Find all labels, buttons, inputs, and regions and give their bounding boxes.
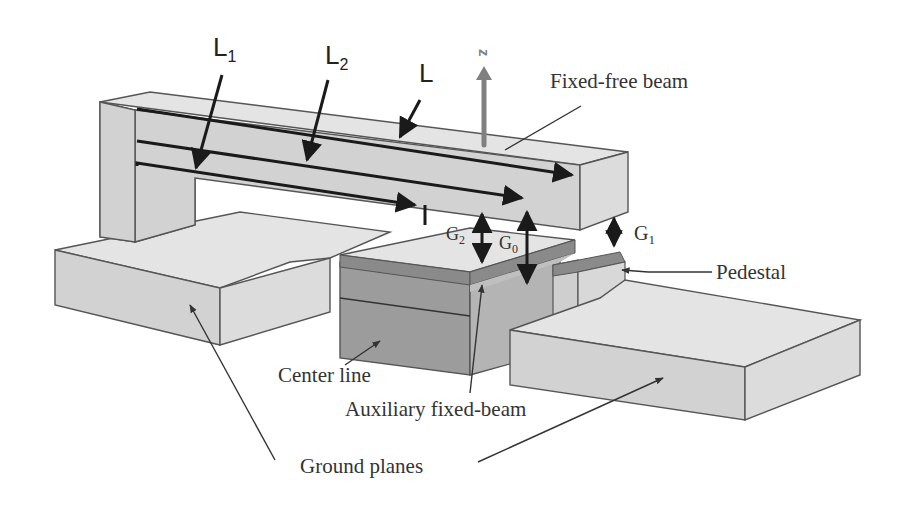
- fixed-free-beam: [100, 92, 628, 242]
- z-axis-label: z: [476, 49, 493, 57]
- label-L1: L1: [213, 32, 236, 65]
- label-L: L: [419, 58, 433, 88]
- label-fixed-free-beam: Fixed-free beam: [550, 69, 688, 93]
- label-auxiliary-fixed-beam: Auxiliary fixed-beam: [345, 397, 526, 421]
- label-G2: G2: [446, 224, 465, 247]
- mems-switch-diagram: z L1 L2 L Fixed-free beam G1 G2 G0 Pedes…: [0, 0, 906, 506]
- label-center-line: Center line: [278, 363, 371, 387]
- z-axis-arrowhead: [476, 66, 492, 80]
- label-ground-planes: Ground planes: [300, 454, 423, 478]
- pedestal-leader: [622, 270, 648, 272]
- label-pedestal: Pedestal: [716, 260, 786, 284]
- label-L2: L2: [325, 40, 348, 73]
- label-G1: G1: [634, 222, 655, 247]
